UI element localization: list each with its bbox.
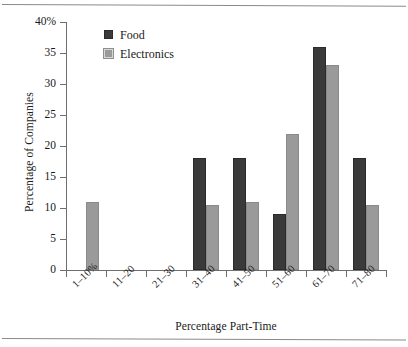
- x-tick-label-2: 21–30: [150, 263, 177, 290]
- y-tick-30: [60, 84, 67, 85]
- chart-legend: Food Electronics: [104, 26, 174, 64]
- y-tick-label-35: 35: [12, 47, 56, 59]
- bar-food-5: [273, 214, 286, 270]
- y-tick-label-0: 0: [12, 264, 56, 276]
- y-tick-35: [60, 53, 67, 54]
- y-tick-10: [60, 208, 67, 209]
- bar-electronics-3: [206, 205, 219, 270]
- y-tick-label-40: 40%: [12, 16, 56, 28]
- y-tick-label-5: 5: [12, 233, 56, 245]
- top-divider-rule: [2, 4, 406, 7]
- bar-food-7: [353, 158, 366, 270]
- y-tick-15: [60, 177, 67, 178]
- y-tick-label-10: 10: [12, 202, 56, 214]
- y-tick-40: [60, 22, 67, 23]
- bar-food-6: [313, 47, 326, 270]
- legend-item-electronics: Electronics: [104, 45, 174, 62]
- x-tick-0: [66, 270, 67, 277]
- legend-swatch-electronics-icon: [104, 49, 113, 58]
- bar-electronics-4: [246, 202, 259, 270]
- x-tick-5: [266, 270, 267, 277]
- bar-food-4: [233, 158, 246, 270]
- bar-food-3: [193, 158, 206, 270]
- legend-label-electronics: Electronics: [120, 48, 174, 60]
- x-tick-8: [386, 270, 387, 277]
- legend-item-food: Food: [104, 26, 174, 43]
- y-tick-20: [60, 146, 67, 147]
- legend-label-food: Food: [120, 29, 145, 41]
- y-tick-label-30: 30: [12, 78, 56, 90]
- y-tick-5: [60, 239, 67, 240]
- x-tick-3: [186, 270, 187, 277]
- bottom-divider-rule: [2, 338, 406, 340]
- y-tick-label-15: 15: [12, 171, 56, 183]
- y-tick-label-20: 20: [12, 140, 56, 152]
- legend-swatch-food-icon: [104, 30, 113, 39]
- x-axis-title: Percentage Part-Time: [66, 320, 386, 332]
- bar-electronics-5: [286, 134, 299, 270]
- bar-electronics-6: [326, 65, 339, 270]
- x-tick-1: [106, 270, 107, 277]
- bar-chart: Percentage of Companies 0510152025303540…: [0, 0, 408, 347]
- x-tick-label-0: 1–10%: [70, 260, 100, 290]
- bar-electronics-7: [366, 205, 379, 270]
- x-tick-2: [146, 270, 147, 277]
- x-tick-6: [306, 270, 307, 277]
- y-tick-25: [60, 115, 67, 116]
- x-tick-7: [346, 270, 347, 277]
- x-tick-label-1: 11–20: [110, 263, 137, 290]
- y-tick-label-25: 25: [12, 109, 56, 121]
- x-tick-4: [226, 270, 227, 277]
